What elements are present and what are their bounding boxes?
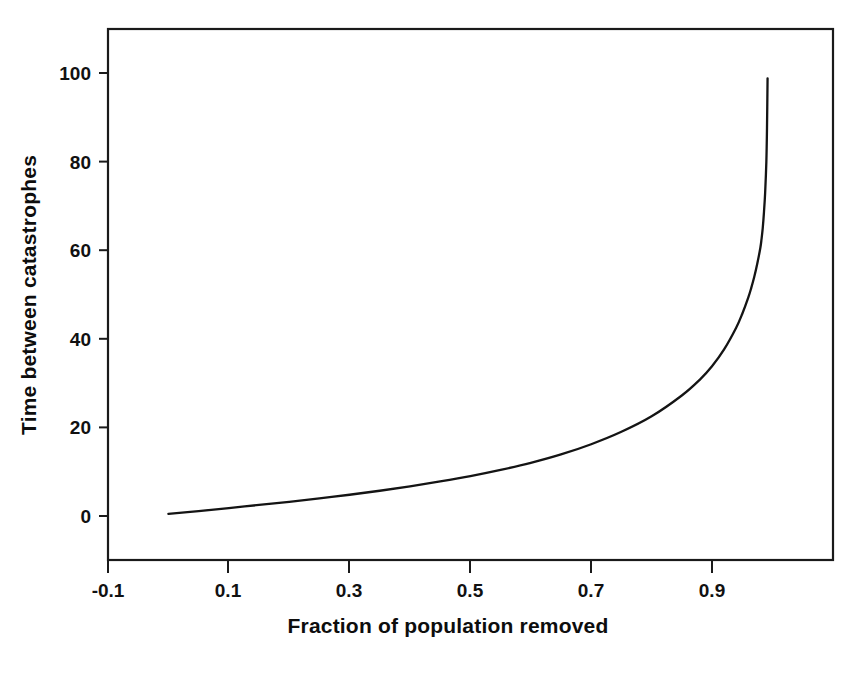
y-tick-label-20: 20: [70, 417, 91, 438]
data-series-line: [168, 78, 767, 513]
x-tick-label-0.3: 0.3: [336, 580, 362, 601]
y-tick-label-100: 100: [59, 63, 91, 84]
line-chart: 0 20 40 60 80 100 -0.1 0.1 0.3 0.5 0.7 0…: [0, 0, 866, 677]
y-tick-label-60: 60: [70, 240, 91, 261]
x-axis-tick-labels: -0.1 0.1 0.3 0.5 0.7 0.9: [92, 580, 726, 601]
y-tick-label-40: 40: [70, 329, 91, 350]
x-tick-label-0.9: 0.9: [699, 580, 725, 601]
x-axis-title: Fraction of population removed: [287, 614, 608, 637]
x-axis-ticks: [108, 560, 712, 573]
scan-artifact-text: [40, 655, 830, 671]
y-axis-tick-labels: 0 20 40 60 80 100: [59, 63, 91, 527]
x-tick-label-neg0.1: -0.1: [92, 580, 125, 601]
x-tick-label-0.5: 0.5: [457, 580, 484, 601]
plot-frame: [108, 29, 833, 560]
x-tick-label-0.7: 0.7: [578, 580, 604, 601]
y-axis-ticks: [99, 73, 108, 516]
y-tick-label-80: 80: [70, 152, 91, 173]
y-tick-label-0: 0: [80, 506, 91, 527]
y-axis-title: Time between catastrophes: [17, 155, 40, 435]
figure-container: 0 20 40 60 80 100 -0.1 0.1 0.3 0.5 0.7 0…: [0, 0, 866, 677]
x-tick-label-0.1: 0.1: [215, 580, 242, 601]
